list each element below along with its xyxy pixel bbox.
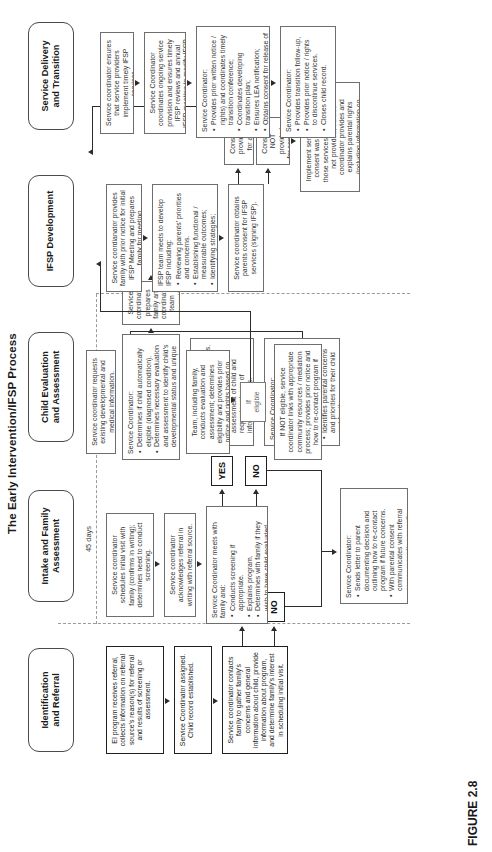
box-sc-obtains-consent: Service coordinator obtains parents cons…: [228, 184, 264, 292]
list-item: Determines necessary evaluation and asse…: [153, 340, 180, 447]
box-bullets: Determines if child automatically eligib…: [136, 340, 180, 454]
arrow-transition-to-close: [271, 80, 276, 86]
box-sc-coordinates-ongoing: Service Coordinator coordinates ongoing …: [144, 32, 186, 134]
figure-number: FIGURE 2.8: [466, 781, 480, 846]
box-bullets: Sends letter to parent documenting decis…: [354, 494, 408, 598]
arrow-notice-to-team-meets: [143, 235, 148, 241]
decision-yes-eval: YES: [211, 456, 233, 486]
phase-label: IFSP Development: [45, 191, 57, 272]
timeline-top-band: [96, 294, 97, 624]
box-sc-letter: Service Coordinator: Sends letter to par…: [340, 488, 408, 604]
box-bullets: Provides prior written notice / rights) …: [210, 32, 270, 132]
box-sc-schedules-visit: Service coordinator schedules initial vi…: [106, 513, 154, 617]
arrow-ei-to-sc-assigned: [165, 698, 170, 704]
box-bullets: Provides transition follow-up, Provides …: [294, 32, 328, 132]
line-contact-to-branch: [242, 630, 243, 646]
phase-header-delivery: Service Deliveryand Transition: [28, 22, 74, 130]
box-ifsp-team-meets: IFSP team meets to develop IFSP includin…: [152, 184, 218, 292]
arrow-to-no: [271, 626, 277, 631]
box-sc-contacts-family: Service coordinator contacts family to g…: [222, 646, 288, 754]
list-item: Identifies parental concerns and priorit…: [321, 344, 340, 433]
phase-header-evaluation: Child Evaluationand Assessment: [28, 332, 74, 442]
box-sc-assigned: Service Coordinator assigned. Child reco…: [174, 646, 212, 754]
box-heading: Service Coordinator:: [345, 494, 353, 598]
list-item: Ensures LEA notification;: [253, 32, 261, 125]
phase-label: Intake and FamilyAssessment: [40, 507, 63, 584]
arrow-sc-assigned-to-contact: [213, 698, 218, 704]
arrow-team-to-eligible: [231, 397, 236, 403]
box-ei-referral: EI program receives referral, collects i…: [106, 646, 164, 754]
box-sc-requests-records-detail: Service coordinator requests existing de…: [86, 350, 116, 454]
list-item: Reviewing parents' priorities and concer…: [175, 190, 192, 279]
list-item: With parental consent communicates with …: [388, 494, 408, 591]
phase-header-ifsp: IFSP Development: [28, 175, 74, 287]
list-item: Coordinates developing transition plan;: [236, 32, 253, 125]
arrow-coordinates-to-transition: [187, 80, 192, 86]
arrow-to-yes: [239, 626, 245, 631]
line-gathers-up: [130, 331, 302, 332]
box-team-conducts-real: Team, including family, conducts evaluat…: [186, 350, 230, 454]
box-heading: Service Coordinator:: [201, 32, 209, 132]
line-meets-to-no: [256, 492, 257, 506]
arrow-meets-yes: [219, 489, 225, 494]
box-sc-ensures-providers-detail: Service coordinator ensures that service…: [100, 32, 134, 134]
list-item: Closes child record.: [320, 32, 328, 125]
list-item: Obtains consent for release of informati…: [262, 32, 270, 125]
line-consent-branch-b: [268, 172, 269, 184]
arrow-acknowledge-to-meets: [197, 561, 202, 567]
arrow-schedule-to-acknowledge: [155, 561, 160, 567]
arrow-ensures-to-coordinates: [135, 80, 140, 86]
decision-if-eligible: Ifeligible: [240, 382, 266, 422]
line-no-right: [321, 552, 322, 607]
phase-label: Service Deliveryand Transition: [40, 41, 63, 112]
phase-header-intake: Intake and FamilyAssessment: [28, 490, 74, 602]
arrow-consent-all: [235, 168, 241, 173]
box-heading: Service Coordinator:: [285, 32, 293, 132]
box-sc-determines-detail: Service Coordinator: Determines if child…: [122, 334, 180, 460]
list-item: Conducts screening if appropriate.: [229, 512, 246, 611]
arrow-consent-not-to-implement: [291, 138, 296, 144]
list-item: Provides prior notice / rights to discon…: [303, 32, 320, 125]
box-sc-meets-family-detail: Service Coordinator meets with family an…: [206, 506, 268, 624]
line-eligible-into-ifsp: [100, 264, 101, 312]
box-sc-prior-notice-ifsp: Service coordianator provides family wit…: [106, 184, 142, 292]
line-contact-to-no: [274, 630, 275, 646]
line-no2-down: [267, 470, 321, 471]
arrow-consent-not: [265, 168, 271, 173]
decision-label: Ifeligible: [245, 391, 261, 412]
box-bullets: Conducts screening if appropriate. Expla…: [229, 512, 268, 618]
list-item: Provides prior written notice / rights) …: [210, 32, 235, 125]
line-eligible-right: [250, 311, 251, 382]
list-item: Explains program.: [246, 512, 254, 611]
arrow-determines-to-prepares: [148, 328, 154, 333]
early-intervention-flowchart: The Early Intervention/IFSP Process FIGU…: [0, 0, 492, 852]
arrow-into-delivery: [88, 149, 93, 155]
arrow-meets-no: [253, 489, 259, 494]
arrow-team-meets-to-consent: [219, 235, 224, 241]
list-item: Establishing functional / measurable out…: [192, 190, 209, 279]
arrow-no-to-letter: [332, 549, 337, 555]
line-no-to-letter: [321, 551, 333, 552]
line-no-down: [285, 606, 321, 607]
page-title: The Early Intervention/IFSP Process: [6, 333, 18, 534]
figure-canvas: The Early Intervention/IFSP Process FIGU…: [0, 0, 492, 852]
list-item: Determines with family if they wish to h…: [254, 512, 268, 611]
phase-label: Child Evaluationand Assessment: [40, 351, 63, 424]
box-heading: Service Coordinator:: [127, 340, 135, 454]
box-not-eligible: If NOT eligible, service coordinator lin…: [274, 344, 322, 460]
decision-no-eval: NO: [245, 456, 267, 486]
box-sc-closes: Service Coordinator: Provides transition…: [280, 26, 336, 138]
phase-header-identification: Identificationand Referral: [28, 648, 74, 752]
list-item: Sends letter to parent documenting decis…: [354, 494, 387, 591]
line-into-delivery: [92, 106, 93, 152]
line-consent-branch-a: [238, 172, 239, 184]
box-sc-transition: Service Coordinator: Provides prior writ…: [196, 26, 270, 138]
box-sc-acknowledges: Service coordinator acknowledges referra…: [164, 513, 196, 617]
line-no2-left: [321, 470, 322, 552]
list-item: Provides transition follow-up,: [294, 32, 302, 125]
timeline-days-label: 45 days: [84, 526, 93, 552]
list-item: Determines if child automatically eligib…: [136, 340, 153, 447]
box-bullets: Reviewing parents' priorities and concer…: [175, 190, 218, 286]
box-heading: IFSP team meets to develop IFSP includin…: [157, 190, 174, 286]
box-heading: Service Coordinator meets with family an…: [211, 512, 228, 618]
